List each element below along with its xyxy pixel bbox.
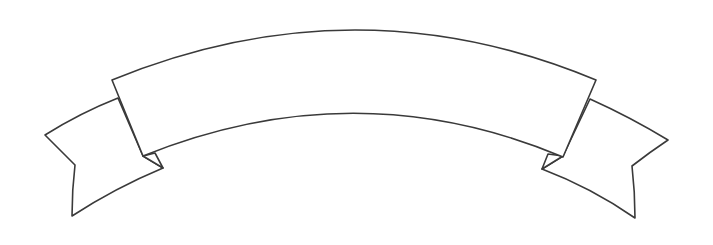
main-band <box>112 30 596 157</box>
ribbon-banner-canvas <box>0 0 713 245</box>
ribbon-banner-icon <box>0 0 713 245</box>
